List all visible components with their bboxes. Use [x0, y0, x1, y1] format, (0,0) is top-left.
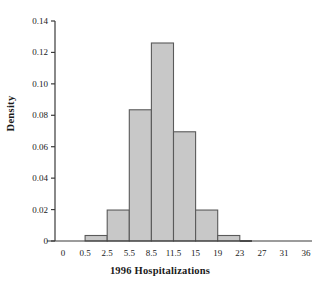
x-tick-label: 0	[61, 248, 66, 258]
x-tick-label: 31	[280, 248, 289, 258]
histogram-svg	[0, 0, 320, 287]
histogram-chart: Density 1996 Hospitalizations 00.020.040…	[0, 0, 320, 287]
histogram-bar	[151, 43, 173, 241]
x-tick-label: 0.5	[79, 248, 90, 258]
histogram-bar	[218, 236, 240, 242]
plot-area	[0, 0, 320, 287]
x-tick-label: 11.5	[166, 248, 181, 258]
histogram-bar	[174, 132, 196, 241]
x-tick-label: 5.5	[124, 248, 135, 258]
x-tick-label: 23	[235, 248, 244, 258]
y-tick-label: 0.04	[8, 173, 48, 183]
histogram-bar	[129, 110, 151, 241]
histogram-bar	[85, 236, 107, 242]
y-tick-label: 0.10	[8, 79, 48, 89]
y-tick-label: 0.08	[8, 110, 48, 120]
x-tick-label: 27	[257, 248, 266, 258]
histogram-bar	[107, 210, 129, 241]
y-tick-label: 0.06	[8, 142, 48, 152]
x-tick-label: 2.5	[102, 248, 113, 258]
y-tick-label: 0.02	[8, 205, 48, 215]
x-tick-label: 19	[213, 248, 222, 258]
histogram-bar	[196, 210, 218, 241]
y-tick-label: 0.14	[8, 16, 48, 26]
x-tick-label: 36	[302, 248, 311, 258]
x-tick-label: 15	[191, 248, 200, 258]
y-tick-label: 0.12	[8, 47, 48, 57]
y-tick-label: 0	[8, 236, 48, 246]
x-tick-label: 8.5	[146, 248, 157, 258]
